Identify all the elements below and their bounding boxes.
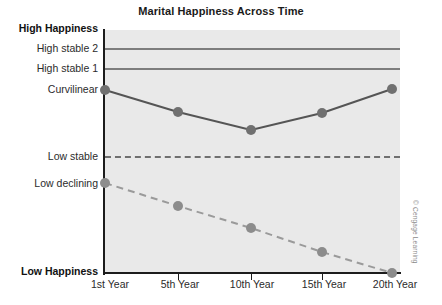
data-point-marker — [387, 268, 397, 278]
series-layer — [0, 0, 442, 305]
data-point-marker — [246, 223, 256, 233]
data-point-marker — [100, 85, 110, 95]
data-point-marker — [387, 84, 397, 94]
curvilinear-series-line — [105, 89, 392, 130]
copyright-credit: © Cengage Learning — [412, 200, 419, 264]
chart-figure: Marital Happiness Across Time High Happi… — [0, 0, 442, 305]
low-declining-markers — [100, 178, 397, 278]
data-point-marker — [317, 247, 327, 257]
curvilinear-markers — [100, 84, 397, 135]
data-point-marker — [173, 107, 183, 117]
data-point-marker — [100, 178, 110, 188]
data-point-marker — [317, 108, 327, 118]
data-point-marker — [246, 125, 256, 135]
data-point-marker — [173, 201, 183, 211]
